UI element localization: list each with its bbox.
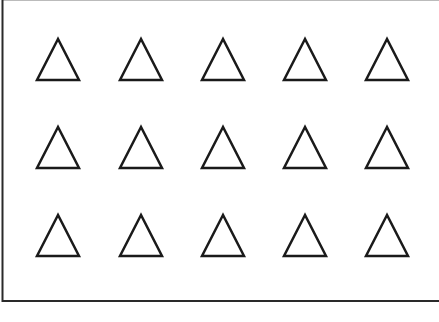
triangle-r2-c2 — [120, 127, 162, 168]
triangle-r2-c3 — [202, 127, 244, 168]
triangle-r1-c2 — [120, 39, 162, 80]
triangle-r1-c4 — [284, 39, 326, 80]
triangle-r1-c3 — [202, 39, 244, 80]
triangle-r3-c4 — [284, 215, 326, 256]
triangle-r1-c5 — [366, 39, 408, 80]
triangle-r2-c4 — [284, 127, 326, 168]
triangle-r2-c1 — [37, 127, 79, 168]
triangle-r1-c1 — [37, 39, 79, 80]
triangle-grid-figure — [0, 0, 439, 322]
triangle-r3-c5 — [366, 215, 408, 256]
triangle-r3-c2 — [120, 215, 162, 256]
triangle-r3-c3 — [202, 215, 244, 256]
triangle-grid — [37, 39, 408, 256]
triangle-r3-c1 — [37, 215, 79, 256]
triangle-r2-c5 — [366, 127, 408, 168]
